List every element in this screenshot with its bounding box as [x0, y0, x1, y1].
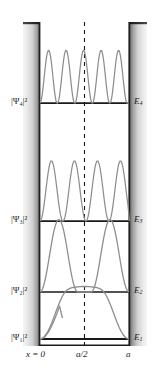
state-label-psi2-text: |Ψ₂|²	[11, 285, 27, 295]
right-potential-wall	[128, 22, 147, 346]
state-label-psi2: |Ψ₂|²	[11, 286, 27, 295]
state-label-psi1-text: |Ψ₁|²	[11, 332, 27, 342]
axis-label-center: a/2	[76, 350, 88, 359]
probability-curve-n3-tail	[86, 161, 129, 221]
probability-curve-n2	[40, 220, 85, 292]
particle-in-a-box-figure: |Ψ₄|² |Ψ₃|² |Ψ₂|² |Ψ₁|² E4 E3 E2 E1 x = …	[0, 0, 162, 371]
state-label-psi4: |Ψ₄|²	[11, 97, 27, 106]
energy-label-E2-sub: 2	[140, 289, 143, 295]
axis-label-left-text: x = 0	[26, 349, 45, 359]
energy-label-E1-sub: 1	[140, 336, 143, 342]
axis-label-left: x = 0	[26, 350, 45, 359]
probability-curve-n3	[40, 161, 86, 221]
state-label-psi1: |Ψ₁|²	[11, 333, 27, 342]
state-label-psi4-text: |Ψ₄|²	[11, 96, 27, 106]
axis-label-center-text: a/2	[76, 349, 88, 359]
axis-label-right: a	[126, 350, 131, 359]
infinite-square-well-diagram	[0, 0, 162, 371]
probability-curve-n2-tail	[85, 220, 130, 292]
energy-label-E4-sub: 4	[140, 100, 143, 106]
energy-label-E4: E4	[134, 97, 143, 106]
energy-label-E1: E1	[134, 333, 143, 342]
left-potential-wall	[23, 22, 40, 346]
state-label-psi3: |Ψ₃|²	[11, 215, 27, 224]
energy-label-E3: E3	[134, 215, 143, 224]
energy-label-E2: E2	[134, 286, 143, 295]
axis-label-right-text: a	[126, 349, 131, 359]
energy-label-E3-sub: 3	[140, 218, 143, 224]
probability-curve-n4	[40, 50, 110, 103]
probability-curve-n4-tail	[110, 50, 129, 103]
state-label-psi3-text: |Ψ₃|²	[11, 214, 27, 224]
